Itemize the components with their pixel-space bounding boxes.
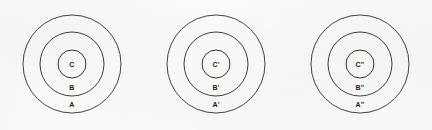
- diagram-2-label-middle: B': [212, 84, 219, 91]
- diagram-2: C' B' A': [144, 0, 288, 130]
- diagram-1-label-middle: B: [69, 84, 74, 91]
- diagram-1: C B A: [0, 0, 144, 130]
- diagram-1-label-inner: C: [69, 61, 74, 68]
- diagram-3-label-inner: C": [356, 61, 365, 68]
- diagram-2-label-outer: A': [212, 101, 219, 108]
- diagram-3-label-outer: A": [356, 101, 365, 108]
- diagram-1-label-outer: A: [69, 101, 74, 108]
- diagram-3-label-middle: B": [356, 84, 365, 91]
- diagram-2-label-inner: C': [212, 61, 219, 68]
- diagram-3: C" B" A": [288, 0, 432, 130]
- concentric-circles-figure: C B A C' B' A' C" B" A": [0, 0, 432, 130]
